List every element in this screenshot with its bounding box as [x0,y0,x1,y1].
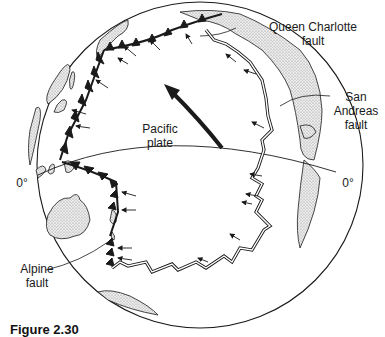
globe-outline [37,2,363,328]
land-south-america [297,160,320,248]
equator-line [38,146,336,175]
label-line: fault [26,276,49,290]
land-australia [46,194,90,238]
label-equator-right: 0° [336,176,360,190]
label-line: plate [147,136,173,150]
label-san-andreas-fault: San Andreas fault [330,90,382,132]
label-line: Queen Charlotte [269,20,357,34]
figure-caption: Figure 2.30 [10,322,79,337]
label-alpine-fault: Alpine fault [12,262,62,290]
label-line: fault [302,34,325,48]
label-line: Alpine [20,262,53,276]
land-asia [96,20,128,58]
label-line: fault [345,118,368,132]
label-line: San [345,90,366,104]
label-equator-left: 0° [10,176,34,190]
label-line: Andreas [334,104,379,118]
label-queen-charlotte-fault: Queen Charlotte fault [258,20,368,48]
label-line: Pacific [142,122,177,136]
label-pacific-plate: Pacific plate [130,122,190,150]
